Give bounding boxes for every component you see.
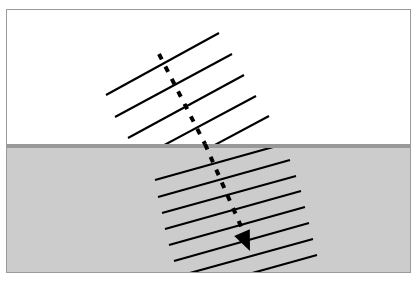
- lower-medium-region: [7, 148, 410, 272]
- figure-canvas: [0, 0, 417, 282]
- diagram-frame: [6, 9, 411, 273]
- upper-medium-region: [7, 10, 410, 144]
- refraction-diagram: [7, 10, 410, 272]
